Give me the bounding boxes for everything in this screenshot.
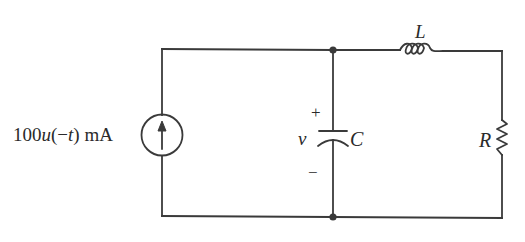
inductor bbox=[400, 44, 443, 54]
current-source bbox=[142, 115, 183, 156]
top-wire-left bbox=[162, 49, 333, 50]
wires bbox=[162, 49, 502, 218]
junction-dot-bottom bbox=[329, 213, 336, 220]
capacitor-minus-sign: − bbox=[308, 163, 318, 182]
inductor-coil bbox=[400, 44, 443, 54]
capacitor-voltage-label: v bbox=[298, 128, 307, 149]
circuit-diagram: 100u(−t) mA + − v C L R bbox=[0, 0, 525, 242]
resistor-zigzag bbox=[497, 120, 507, 155]
junction-dot-top bbox=[329, 46, 336, 53]
arrow-up-icon bbox=[158, 121, 166, 149]
resistor bbox=[497, 120, 507, 155]
capacitor-plus-sign: + bbox=[311, 103, 321, 122]
source-label: 100u(−t) mA bbox=[13, 124, 113, 146]
inductor-label: L bbox=[414, 21, 426, 42]
capacitor-label: C bbox=[350, 128, 364, 150]
resistor-label: R bbox=[478, 129, 491, 151]
